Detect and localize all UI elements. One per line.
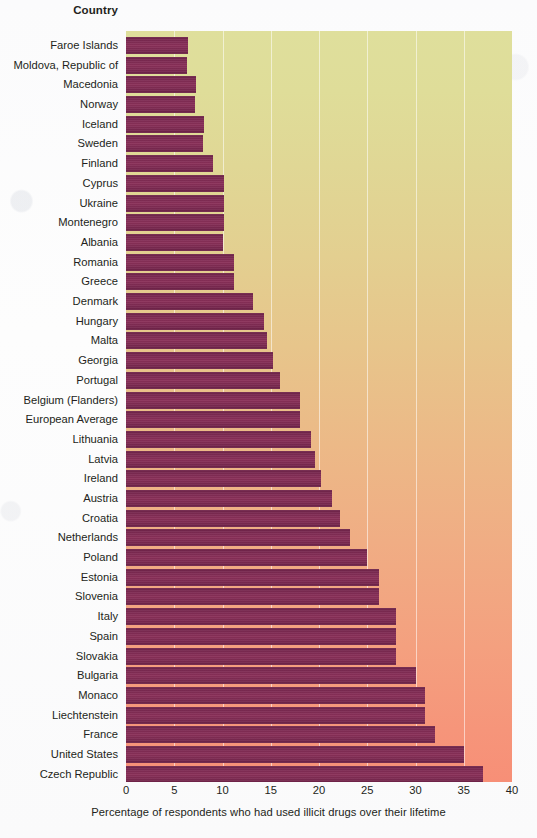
bar xyxy=(126,293,253,310)
bar xyxy=(126,96,195,113)
bar xyxy=(126,57,187,74)
bar xyxy=(126,37,188,54)
bar xyxy=(126,392,300,409)
bar xyxy=(126,766,483,782)
bar xyxy=(126,431,311,448)
bar xyxy=(126,667,416,684)
bar xyxy=(126,155,213,172)
bar xyxy=(126,332,267,349)
bar xyxy=(126,135,203,152)
bar xyxy=(126,510,340,527)
x-tick-label: 0 xyxy=(123,784,129,796)
bar xyxy=(126,352,273,369)
column-header-country: Country xyxy=(0,4,126,16)
bar xyxy=(126,628,396,645)
bar xyxy=(126,234,223,251)
bar xyxy=(126,687,425,704)
bar xyxy=(126,214,224,231)
bar xyxy=(126,588,379,605)
bar xyxy=(126,726,435,743)
x-axis-title: Percentage of respondents who had used i… xyxy=(0,806,537,818)
x-tick-label: 30 xyxy=(409,784,421,796)
x-tick-label: 40 xyxy=(506,784,518,796)
bar xyxy=(126,529,350,546)
bar xyxy=(126,549,367,566)
bar xyxy=(126,116,204,133)
bar xyxy=(126,648,396,665)
bar xyxy=(126,490,332,507)
category-axis-labels: Faroe IslandsMoldova, Republic ofMacedon… xyxy=(0,31,126,782)
bar xyxy=(126,372,280,389)
bar xyxy=(126,707,425,724)
x-tick-label: 20 xyxy=(313,784,325,796)
bar xyxy=(126,411,300,428)
x-tick-label: 25 xyxy=(361,784,373,796)
bar-row xyxy=(126,763,512,782)
bar xyxy=(126,470,321,487)
bar xyxy=(126,313,264,330)
bar xyxy=(126,195,224,212)
category-label: Czech Republic xyxy=(40,763,118,786)
x-tick-label: 5 xyxy=(171,784,177,796)
x-tick-label: 10 xyxy=(216,784,228,796)
chart-page: Country Faroe IslandsMoldova, Republic o… xyxy=(0,0,537,838)
plot-area xyxy=(126,31,512,782)
bar xyxy=(126,76,196,93)
x-tick-label: 15 xyxy=(265,784,277,796)
bar xyxy=(126,746,464,763)
x-tick-label: 35 xyxy=(458,784,470,796)
bar xyxy=(126,175,224,192)
bar xyxy=(126,451,315,468)
x-axis-ticks: 0510152025303540 xyxy=(126,784,512,802)
bar xyxy=(126,569,379,586)
bar xyxy=(126,608,396,625)
bar xyxy=(126,273,234,290)
bar xyxy=(126,254,234,271)
